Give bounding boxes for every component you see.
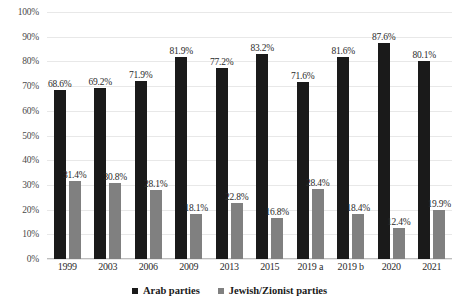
y-axis-tick-label: 60% <box>22 106 39 116</box>
x-axis: 1999200320062009201320152019 a2019 b2020… <box>47 261 452 272</box>
x-axis-tick-label: 2013 <box>209 261 250 272</box>
bar[interactable] <box>231 203 243 259</box>
bar[interactable] <box>54 90 66 259</box>
legend-entry[interactable]: Jewish/Zionist parties <box>218 285 327 296</box>
bar-group: 71.6%28.4% <box>290 12 331 259</box>
x-axis-tick-label: 2006 <box>128 261 169 272</box>
y-axis-tick-label: 100% <box>18 7 39 17</box>
bar-container: 81.6% <box>337 12 349 259</box>
bar-value-label: 30.8% <box>103 172 127 182</box>
x-axis-tick-label: 2015 <box>250 261 291 272</box>
bar[interactable] <box>337 57 349 259</box>
legend-swatch-icon <box>218 288 224 294</box>
bar[interactable] <box>94 88 106 259</box>
bar-container: 18.4% <box>352 12 364 259</box>
bar-container: 71.6% <box>297 12 309 259</box>
bar-group: 83.2%16.8% <box>250 12 291 259</box>
bar-value-label: 18.4% <box>346 203 370 213</box>
bar-container: 87.6% <box>378 12 390 259</box>
x-axis-tick-label: 2019 b <box>331 261 372 272</box>
bar-container: 19.9% <box>433 12 445 259</box>
bar-value-label: 16.8% <box>265 207 289 217</box>
bar[interactable] <box>69 181 81 259</box>
bar[interactable] <box>312 189 324 259</box>
bar[interactable] <box>433 210 445 259</box>
bar[interactable] <box>216 68 228 259</box>
bar[interactable] <box>190 214 202 259</box>
bar-container: 28.1% <box>150 12 162 259</box>
y-axis-tick-label: 20% <box>22 205 39 215</box>
bar-container: 12.4% <box>393 12 405 259</box>
bar[interactable] <box>393 228 405 259</box>
bar-container: 22.8% <box>231 12 243 259</box>
bar[interactable] <box>352 214 364 259</box>
bar-chart: 100%90%80%70%60%50%40%30%20%10%0% 68.6%3… <box>0 0 459 308</box>
y-axis-tick-label: 0% <box>27 254 39 264</box>
bar[interactable] <box>109 183 121 259</box>
bar-value-label: 28.4% <box>306 178 330 188</box>
bar[interactable] <box>297 82 309 259</box>
bar-container: 28.4% <box>312 12 324 259</box>
bar[interactable] <box>135 81 147 259</box>
y-axis: 100%90%80%70%60%50%40%30%20%10%0% <box>0 12 43 259</box>
bar-container: 18.1% <box>190 12 202 259</box>
y-axis-tick-label: 50% <box>22 131 39 141</box>
y-axis-tick-label: 40% <box>22 155 39 165</box>
bar[interactable] <box>378 43 390 259</box>
y-axis-tick-label: 90% <box>22 32 39 42</box>
chart-legend: Arab partiesJewish/Zionist parties <box>0 285 459 296</box>
bar-group: 77.2%22.8% <box>209 12 250 259</box>
bar-value-label: 19.9% <box>427 199 451 209</box>
legend-label: Jewish/Zionist parties <box>229 285 327 296</box>
bar-value-label: 31.4% <box>63 170 87 180</box>
bar-group: 81.6%18.4% <box>331 12 372 259</box>
x-axis-tick-label: 2019 a <box>290 261 331 272</box>
bar-group: 68.6%31.4% <box>47 12 88 259</box>
bar-group: 80.1%19.9% <box>412 12 453 259</box>
bar-container: 81.9% <box>175 12 187 259</box>
bar-container: 80.1% <box>418 12 430 259</box>
bar-container: 77.2% <box>216 12 228 259</box>
bar-value-label: 28.1% <box>144 179 168 189</box>
bar[interactable] <box>418 61 430 259</box>
bar[interactable] <box>271 218 283 259</box>
bar-groups: 68.6%31.4%69.2%30.8%71.9%28.1%81.9%18.1%… <box>47 12 452 259</box>
x-axis-tick-label: 2009 <box>169 261 210 272</box>
bar-group: 87.6%12.4% <box>371 12 412 259</box>
x-axis-tick-label: 2020 <box>371 261 412 272</box>
bar[interactable] <box>175 57 187 259</box>
legend-entry[interactable]: Arab parties <box>132 285 200 296</box>
bar-container: 31.4% <box>69 12 81 259</box>
gridline <box>47 259 452 260</box>
bar-container: 16.8% <box>271 12 283 259</box>
x-axis-tick-label: 2021 <box>412 261 453 272</box>
bar-group: 81.9%18.1% <box>169 12 210 259</box>
x-axis-tick-label: 2003 <box>88 261 129 272</box>
x-axis-tick-label: 1999 <box>47 261 88 272</box>
bar-value-label: 18.1% <box>184 203 208 213</box>
legend-swatch-icon <box>132 288 138 294</box>
bar-container: 71.9% <box>135 12 147 259</box>
y-axis-tick-label: 70% <box>22 81 39 91</box>
bar-container: 69.2% <box>94 12 106 259</box>
bar-group: 71.9%28.1% <box>128 12 169 259</box>
bar-group: 69.2%30.8% <box>88 12 129 259</box>
y-axis-tick-label: 30% <box>22 180 39 190</box>
bar-container: 83.2% <box>256 12 268 259</box>
bar-value-label: 12.4% <box>387 217 411 227</box>
bar-value-label: 22.8% <box>225 192 249 202</box>
bar-container: 68.6% <box>54 12 66 259</box>
bar[interactable] <box>256 54 268 260</box>
bar[interactable] <box>150 190 162 259</box>
legend-label: Arab parties <box>143 285 200 296</box>
y-axis-tick-label: 10% <box>22 229 39 239</box>
bar-container: 30.8% <box>109 12 121 259</box>
y-axis-tick-label: 80% <box>22 56 39 66</box>
